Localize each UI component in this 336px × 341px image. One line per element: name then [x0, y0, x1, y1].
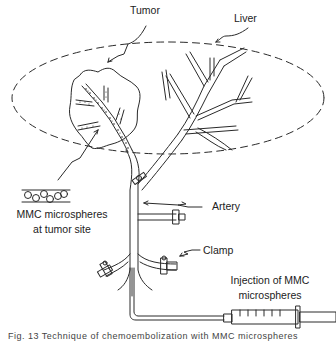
microspheres-label-line2: at tumor site: [12, 223, 112, 236]
liver-arterial-tree: [138, 48, 252, 190]
figure-caption: Fig. 13 Technique of chemoembolization w…: [8, 331, 298, 341]
clamp-right-lower: [161, 256, 177, 274]
tumor-vessels: [76, 84, 132, 152]
liver-label: Liver: [234, 12, 257, 25]
injection-label-line1: Injection of MMC: [218, 274, 322, 287]
catheter-right: [134, 268, 224, 316]
clamp-pointer: [180, 250, 200, 256]
liver-pointer: [216, 28, 248, 42]
tumor-label: Tumor: [130, 4, 160, 17]
syringe: [224, 306, 336, 328]
artery-label: Artery: [212, 200, 240, 213]
injection-label-line2: microspheres: [218, 289, 322, 302]
clamp-label: Clamp: [203, 244, 233, 257]
microspheres-label-line1: MMC microspheres: [12, 208, 112, 221]
right-lower-branch-b: [140, 262, 176, 270]
left-lower-branch-a: [104, 254, 130, 270]
liver-outline: [12, 42, 324, 154]
microspheres-pointer: [58, 130, 98, 180]
tumor-outline: [69, 68, 140, 148]
microspheres-inset: [22, 190, 70, 203]
artery-pointer: [178, 202, 202, 207]
catheter-left: [130, 268, 224, 320]
clamp-side-branch-1: [173, 210, 185, 224]
clamp-left-lower: [97, 261, 112, 277]
